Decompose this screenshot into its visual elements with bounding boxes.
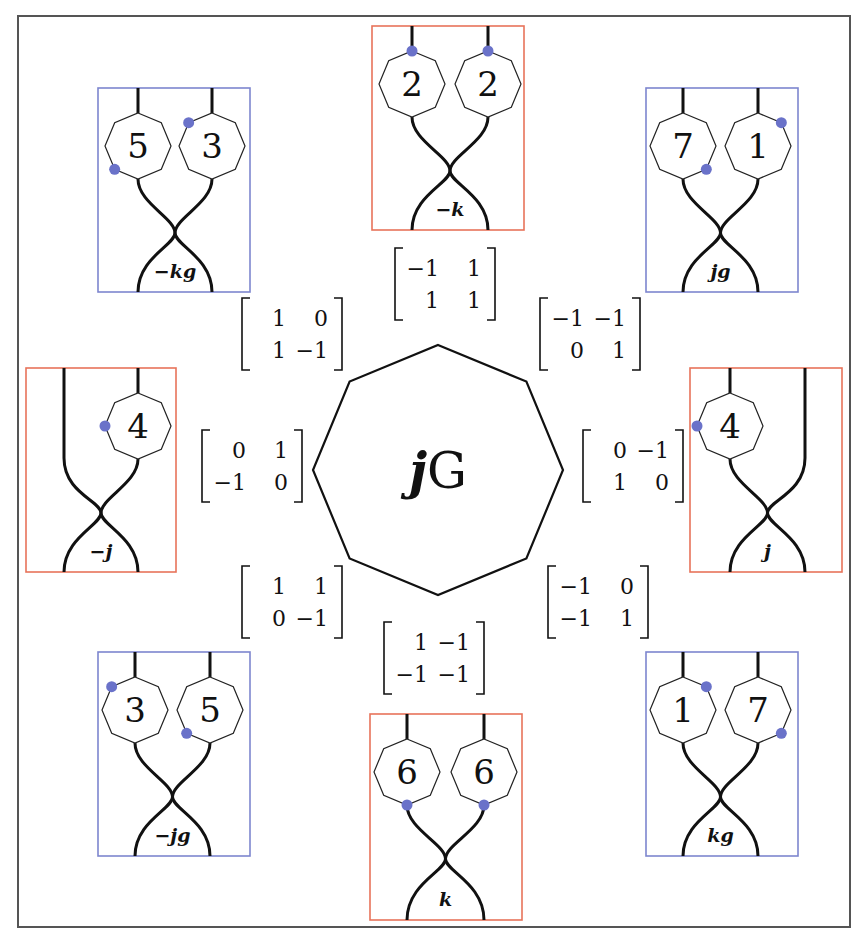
matrix-cell: 1 xyxy=(612,338,626,363)
marker-dot xyxy=(692,421,703,432)
matrix-cell: −1 xyxy=(214,470,246,495)
matrix-cell: 0 xyxy=(620,574,634,599)
matrix-left-bracket xyxy=(202,430,210,502)
panel-label: −k xyxy=(435,198,464,220)
braid-panel-left: 4−j xyxy=(26,368,176,572)
marker-dot xyxy=(106,681,117,692)
marker-dot xyxy=(181,728,192,739)
matrix-bottom-right: −10−11 xyxy=(548,566,648,638)
matrix-top-right: −1−101 xyxy=(540,298,640,370)
panel-label: jg xyxy=(706,260,730,282)
matrix-cell: 0 xyxy=(314,306,328,331)
diagram-canvas: jG 22−k53−kg71jg4−j4j35−jg66k17kg −11111… xyxy=(0,0,866,944)
node-label: 7 xyxy=(672,126,694,166)
matrix-cell: −1 xyxy=(560,574,592,599)
node-label: 3 xyxy=(124,690,146,730)
matrix-cell: 1 xyxy=(272,574,286,599)
matrix-cell: −1 xyxy=(407,256,439,281)
node-label: 1 xyxy=(747,126,769,166)
marker-dot xyxy=(701,681,712,692)
node-label: 3 xyxy=(201,126,223,166)
marker-dot xyxy=(402,800,413,811)
braid-panel-right: 4j xyxy=(690,368,842,572)
matrix-cell: 1 xyxy=(467,256,481,281)
braid-panel-top-right: 71jg xyxy=(646,88,798,292)
matrix-right-bracket xyxy=(334,298,342,370)
center-label-j: j xyxy=(400,441,427,500)
matrix-right: 0−110 xyxy=(583,430,683,502)
node-label: 2 xyxy=(477,64,499,104)
braid-panel-bottom-left: 35−jg xyxy=(98,652,250,856)
matrix-cell: 0 xyxy=(570,338,584,363)
matrix-cell: −1 xyxy=(396,662,428,687)
center-label-G: G xyxy=(427,442,467,500)
marker-dot xyxy=(776,117,787,128)
matrix-left-bracket xyxy=(242,298,250,370)
matrix-right-bracket xyxy=(487,248,495,320)
matrix-cell: 0 xyxy=(232,438,246,463)
matrix-left-bracket xyxy=(540,298,548,370)
marker-dot xyxy=(479,800,490,811)
matrix-cell: −1 xyxy=(560,606,592,631)
panel-label: −jg xyxy=(154,824,190,846)
matrix-cell: −1 xyxy=(552,306,584,331)
marker-dot xyxy=(701,164,712,175)
matrix-left-bracket xyxy=(242,566,250,638)
center-octagon-group: jG xyxy=(313,345,563,595)
panel-label: k xyxy=(439,888,452,910)
matrix-right-bracket xyxy=(294,430,302,502)
matrix-bottom-left: 110−1 xyxy=(242,566,342,638)
matrix-cell: 1 xyxy=(314,574,328,599)
matrix-cell: 0 xyxy=(272,606,286,631)
node-label: 4 xyxy=(719,406,741,446)
matrix-cell: −1 xyxy=(438,630,470,655)
matrix-left-bracket xyxy=(384,622,392,694)
matrix-cell: 0 xyxy=(613,438,627,463)
marker-dot xyxy=(109,164,120,175)
marker-dot xyxy=(183,117,194,128)
matrix-cell: 1 xyxy=(425,288,439,313)
matrix-cell: −1 xyxy=(296,338,328,363)
braid-panel-bottom-right: 17kg xyxy=(646,652,798,856)
matrix-cell: 1 xyxy=(272,338,286,363)
matrix-bottom: 1−1−1−1 xyxy=(384,622,484,694)
center-label: jG xyxy=(400,441,467,500)
matrix-cell: −1 xyxy=(438,662,470,687)
matrix-cell: 1 xyxy=(613,470,627,495)
matrix-right-bracket xyxy=(640,566,648,638)
matrix-cell: 1 xyxy=(274,438,288,463)
matrix-cell: 1 xyxy=(414,630,428,655)
matrix-cell: −1 xyxy=(637,438,669,463)
matrix-top: −1111 xyxy=(395,248,495,320)
matrix-cell: 0 xyxy=(274,470,288,495)
matrix-cell: 0 xyxy=(655,470,669,495)
braid-panel-bottom: 66k xyxy=(370,714,522,920)
marker-dot xyxy=(483,46,494,57)
panel-label: kg xyxy=(707,824,733,846)
matrix-cell: 1 xyxy=(467,288,481,313)
panel-label: −j xyxy=(90,540,113,562)
matrix-cell: −1 xyxy=(594,306,626,331)
matrix-right-bracket xyxy=(675,430,683,502)
marker-dot xyxy=(407,46,418,57)
node-label: 2 xyxy=(401,64,423,104)
matrix-left-bracket xyxy=(395,248,403,320)
matrix-right-bracket xyxy=(476,622,484,694)
matrix-top-left: 101−1 xyxy=(242,298,342,370)
node-label: 4 xyxy=(127,406,149,446)
node-label: 6 xyxy=(473,752,495,792)
matrix-cell: 1 xyxy=(620,606,634,631)
matrix-right-bracket xyxy=(334,566,342,638)
braid-panel-top-left: 53−kg xyxy=(98,88,250,292)
matrix-left-bracket xyxy=(548,566,556,638)
panel-label: −kg xyxy=(154,260,196,282)
braid-panel-top: 22−k xyxy=(372,26,524,230)
marker-dot xyxy=(776,728,787,739)
marker-dot xyxy=(100,421,111,432)
matrix-left-bracket xyxy=(583,430,591,502)
matrix-cell: 1 xyxy=(272,306,286,331)
matrix-left: 01−10 xyxy=(202,430,302,502)
node-label: 5 xyxy=(127,126,149,166)
node-label: 5 xyxy=(199,690,221,730)
node-label: 1 xyxy=(672,690,694,730)
